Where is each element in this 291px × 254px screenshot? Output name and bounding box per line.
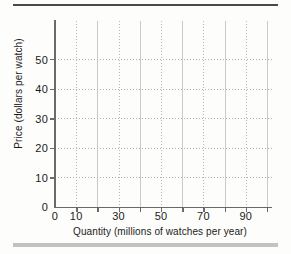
y-tick-30: [50, 118, 55, 119]
bottom-horizontal-rule: [13, 243, 278, 247]
top-horizontal-rule: [13, 4, 278, 6]
x-tick-60: [182, 207, 183, 212]
gridline-x-40: [140, 21, 141, 207]
gridline-y-10: [55, 177, 272, 178]
x-tick-label-10: 10: [63, 210, 89, 222]
gridline-x-70: [203, 21, 204, 207]
y-tick-20: [50, 148, 55, 149]
plot-area: [55, 21, 272, 207]
gridline-x-50: [161, 21, 162, 207]
y-tick-50: [50, 59, 55, 60]
y-axis-line: [54, 20, 56, 208]
gridline-y-50: [55, 59, 272, 60]
x-tick-label-70: 70: [190, 210, 216, 222]
gridline-x-30: [119, 21, 120, 207]
x-tick-80: [225, 207, 226, 212]
gridline-x-100: [267, 21, 268, 207]
gridline-x-80: [225, 21, 226, 207]
chart-figure: 10 20 30 40 50 0 0 10 30 50 70 90 Price …: [0, 0, 291, 254]
gridline-x-60: [182, 21, 183, 207]
gridline-x-20: [97, 21, 98, 207]
gridline-y-20: [55, 148, 272, 149]
x-tick-20: [97, 207, 98, 212]
x-tick-label-90: 90: [233, 210, 259, 222]
y-tick-label-10: 10: [18, 172, 48, 184]
x-axis-line: [54, 207, 272, 209]
x-tick-label-30: 30: [106, 210, 132, 222]
x-tick-label-50: 50: [148, 210, 174, 222]
x-axis-title: Quantity (millions of watches per year): [40, 226, 280, 237]
x-tick-100: [267, 207, 268, 212]
x-tick-40: [140, 207, 141, 212]
y-tick-40: [50, 89, 55, 90]
gridline-x-10: [76, 21, 77, 207]
y-tick-10: [50, 177, 55, 178]
gridline-x-90: [246, 21, 247, 207]
gridline-y-40: [55, 89, 272, 90]
gridline-y-30: [55, 118, 272, 119]
y-axis-title: Price (dollars per watch): [13, 14, 24, 174]
